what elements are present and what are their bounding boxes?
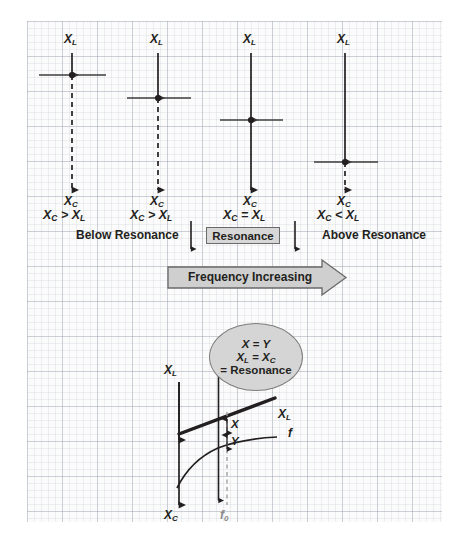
phasor-bottom-label-4: XC: [337, 195, 351, 207]
below-resonance-label: Below Resonance: [76, 229, 179, 241]
oval-line-1: X = Y: [242, 338, 270, 350]
resonance-box-label: Resonance: [212, 230, 273, 242]
above-resonance-label: Above Resonance: [322, 229, 426, 241]
segment-x-label: X: [231, 419, 239, 431]
phasor-top-label-4: XL: [337, 33, 350, 45]
phasor-comparison-3: XC = XL: [223, 209, 265, 222]
phasor-comparison-4: XC < XL: [317, 209, 359, 222]
phasor-column-3: [220, 53, 283, 190]
resonance-definition-oval: X = Y XL = XC = Resonance: [209, 323, 303, 391]
graph-yaxis-top-label: XL: [164, 364, 177, 376]
phasor-comparison-1: XC > XL: [43, 209, 85, 222]
phasor-origin-dot-3: [248, 117, 254, 123]
phasor-comparison-2: XC > XL: [130, 209, 172, 222]
phasor-column-2: [127, 53, 191, 190]
phasor-column-4: [314, 53, 378, 190]
graph-yaxis-bottom-label: XC: [164, 509, 178, 521]
resonance-box[interactable]: Resonance: [206, 227, 280, 244]
phasor-column-1: [39, 53, 106, 190]
curve-xl-label: XL: [278, 408, 291, 420]
graph-xaxis-label: f: [288, 427, 292, 439]
phasor-bottom-label-1: XC: [64, 195, 78, 207]
oval-line-2: XL = XC: [236, 351, 275, 363]
phasor-top-label-2: XL: [150, 33, 163, 45]
phasor-origin-dot-2: [155, 95, 161, 101]
phasor-bottom-label-2: XC: [150, 195, 164, 207]
phasor-bottom-label-3: XC: [243, 195, 257, 207]
phasor-origin-dot-4: [342, 159, 348, 165]
segment-y-label: Y: [231, 436, 239, 448]
phasor-top-label-3: XL: [243, 33, 256, 45]
diagram-canvas: XL XL XL XL XC XC XC XC XC > XL XC > XL …: [0, 0, 463, 553]
phasor-top-label-1: XL: [64, 33, 77, 45]
resonant-frequency-label: f0: [220, 509, 228, 521]
oval-line-3: = Resonance: [220, 364, 291, 376]
frequency-increasing-label: Frequency Increasing: [188, 271, 312, 283]
phasor-origin-dot-1: [69, 72, 75, 78]
